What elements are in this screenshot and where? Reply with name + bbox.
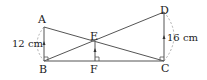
label-d: D xyxy=(160,4,169,17)
label-a: A xyxy=(37,13,47,26)
arrow-ef-icon xyxy=(94,48,97,52)
arrow-dc-icon xyxy=(163,35,166,39)
geometry-diagram: A B C D E F 12 cm 16 cm xyxy=(0,0,207,80)
measurement-ab: 12 cm xyxy=(12,38,44,49)
right-angle-f xyxy=(95,57,99,61)
label-b: B xyxy=(39,63,47,76)
segment-bd xyxy=(44,12,164,61)
segment-ac xyxy=(44,27,164,61)
measurement-dc: 16 cm xyxy=(167,32,199,43)
label-f: F xyxy=(90,63,98,76)
label-e: E xyxy=(90,30,98,43)
label-c: C xyxy=(161,62,169,75)
